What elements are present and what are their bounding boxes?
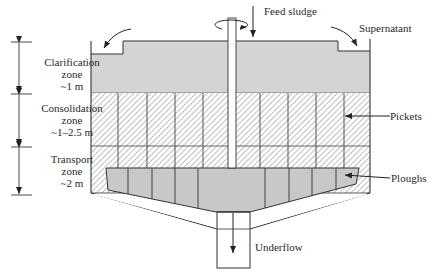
clarification-zone-label: Clarification zone ~1 m xyxy=(28,56,116,92)
rake-shaft xyxy=(228,18,236,168)
thickener-diagram xyxy=(0,0,430,280)
pickets-label: Pickets xyxy=(390,110,422,122)
consolidation-zone-label: Consolidation zone ~1–2.5 m xyxy=(28,102,116,138)
supernatant-label: Supernatant xyxy=(359,22,412,34)
transport-zone-label: Transport zone ~2 m xyxy=(28,153,116,189)
feed-sludge-label: Feed sludge xyxy=(264,5,317,17)
ploughs-label: Ploughs xyxy=(391,172,426,184)
underflow-label: Underflow xyxy=(255,241,303,253)
